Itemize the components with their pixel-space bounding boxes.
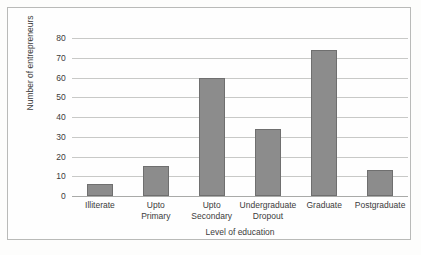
bar <box>87 184 113 196</box>
x-axis-tick-label: UndergraduateDropout <box>240 200 297 221</box>
x-axis-tick-label-line: Undergraduate <box>240 200 297 211</box>
x-axis-tick-label-line: Upto <box>128 200 184 211</box>
bar-slot <box>240 38 296 196</box>
x-axis-tick-label-line: Postgraduate <box>352 200 408 211</box>
y-axis-tick-label: 10 <box>56 171 66 181</box>
bar-slot <box>128 38 184 196</box>
y-axis-tick-label: 80 <box>56 33 66 43</box>
bar-series <box>72 38 408 196</box>
figure-frame-border: Number of entrepreneurs 0102030405060708… <box>7 7 411 240</box>
bar-slot <box>352 38 408 196</box>
bar <box>311 50 337 196</box>
axis-baseline <box>72 196 408 197</box>
bar-slot <box>184 38 240 196</box>
x-axis-tick-label-line: Dropout <box>240 211 297 222</box>
y-axis-tick-label: 50 <box>56 92 66 102</box>
y-axis-tick-label: 40 <box>56 112 66 122</box>
x-axis-tick-label-line: Illiterate <box>72 200 128 211</box>
bar-chart-figure: Number of entrepreneurs 0102030405060708… <box>0 0 421 255</box>
x-axis-tick-label: Postgraduate <box>352 200 408 221</box>
x-axis-tick-label-line: Primary <box>128 211 184 222</box>
x-axis-tick-label-line: Upto <box>184 200 240 211</box>
y-axis-tick-label: 0 <box>61 191 66 201</box>
bar <box>199 78 225 197</box>
y-axis-tick-label: 20 <box>56 152 66 162</box>
x-axis-tick-label: UptoSecondary <box>184 200 240 221</box>
y-axis-tick-label: 60 <box>56 73 66 83</box>
bar <box>143 166 169 196</box>
x-axis-tick-labels: IlliterateUptoPrimaryUptoSecondaryUnderg… <box>72 200 408 221</box>
bar <box>255 129 281 196</box>
x-axis-tick-label-line: Secondary <box>184 211 240 222</box>
bar-slot <box>296 38 352 196</box>
x-axis-tick-label-line: Graduate <box>296 200 352 211</box>
bar-slot <box>72 38 128 196</box>
y-axis-tick-label: 30 <box>56 132 66 142</box>
bar <box>367 170 393 196</box>
y-axis-tick-label: 70 <box>56 53 66 63</box>
x-axis-tick-label: UptoPrimary <box>128 200 184 221</box>
x-axis-title: Level of education <box>72 227 408 237</box>
x-axis-tick-label: Illiterate <box>72 200 128 221</box>
y-axis-tick-labels: 01020304050607080 <box>28 38 70 196</box>
x-axis-tick-label: Graduate <box>296 200 352 221</box>
